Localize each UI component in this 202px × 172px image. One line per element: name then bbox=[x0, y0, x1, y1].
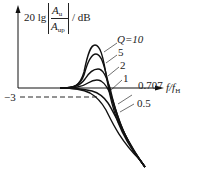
curves bbox=[60, 45, 145, 167]
frac-den-letter: A bbox=[51, 20, 58, 32]
frac-num-letter: A bbox=[52, 4, 59, 16]
q0707-label: 0.707 bbox=[138, 80, 163, 91]
frac-num-sub: u bbox=[59, 10, 63, 18]
y-axis-frac-den: Aup bbox=[51, 21, 65, 34]
q5-label: 5 bbox=[118, 47, 124, 58]
q05-label: 0.5 bbox=[137, 98, 151, 109]
y-axis-abs-right-bar bbox=[68, 3, 69, 34]
y-axis-prefix: 20 lg bbox=[24, 12, 46, 23]
minus3-label: −3 bbox=[4, 92, 16, 103]
y-axis-arrow-icon bbox=[16, 5, 21, 13]
x-axis-f: f/f bbox=[166, 81, 175, 93]
y-axis-unit: / dB bbox=[72, 12, 91, 23]
curve-q05 bbox=[60, 88, 145, 167]
q10-label: Q=10 bbox=[117, 34, 143, 45]
y-axis-abs-left-bar bbox=[48, 3, 49, 34]
x-axis-label: f/fH bbox=[166, 82, 180, 95]
curve-q1 bbox=[60, 80, 145, 167]
y-axis-frac-num: Au bbox=[52, 5, 62, 18]
q10-text: Q=10 bbox=[117, 33, 143, 45]
x-axis-sub: H bbox=[175, 87, 180, 95]
curve-q0707 bbox=[60, 88, 145, 167]
q1-label: 1 bbox=[123, 73, 129, 84]
frac-den-sub: up bbox=[58, 26, 65, 34]
q2-label: 2 bbox=[120, 60, 126, 71]
y-axis-frac-bar bbox=[51, 18, 68, 19]
